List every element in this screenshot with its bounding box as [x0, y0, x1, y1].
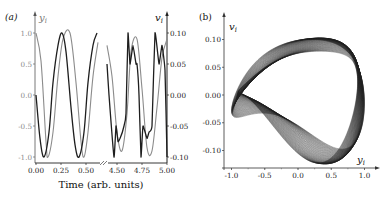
tick-label: 0.05 [205, 63, 221, 72]
panel-b-label: (b) [199, 12, 212, 22]
tick-label: 0.50 [78, 166, 94, 175]
panel-a-right-axis-arrow-icon [165, 11, 168, 16]
tick-label: -1.0 [225, 171, 239, 180]
panel-b-x-var-label: yi [356, 154, 365, 167]
panel-a: (a) yi 1.00.50.0-0.5-1.0 vi 0.100.050.00… [5, 11, 189, 190]
tick-label: 4.75 [134, 166, 150, 175]
panel-b-phase-portrait [232, 38, 365, 164]
panel-b-x-axis-arrow-icon [375, 166, 380, 169]
panel-a-left-ticks: 1.00.50.0-0.5-1.0 [18, 29, 35, 162]
tick-label: 0.0 [21, 91, 33, 100]
tick-label: 4.50 [109, 166, 125, 175]
tick-label: 0.10 [170, 29, 186, 38]
tick-label: -0.5 [258, 171, 272, 180]
tick-label: 0.0 [292, 171, 304, 180]
tick-label: -0.05 [203, 118, 222, 127]
phase-loop [233, 38, 362, 157]
tick-label: -0.10 [170, 153, 189, 162]
tick-label: -0.05 [170, 122, 189, 131]
panel-a-left-var-label: yi [38, 12, 47, 25]
panel-b-y-axis-arrow-icon [222, 12, 225, 17]
panel-b-y-var-label: vi [229, 21, 237, 34]
tick-label: 0.00 [28, 166, 44, 175]
tick-label: 5.00 [159, 166, 175, 175]
panel-b: (b) vi 0.100.050.00-0.05-0.10 yi -1.0-0.… [199, 12, 380, 180]
panel-a-curves [36, 30, 167, 158]
tick-label: 0.5 [326, 171, 338, 180]
tick-label: 1.0 [359, 171, 371, 180]
tick-label: 0.25 [53, 166, 69, 175]
panel-b-y-ticks: 0.100.050.00-0.05-0.10 [203, 35, 224, 155]
panel-a-label: (a) [5, 12, 18, 22]
figure: (a) yi 1.00.50.0-0.5-1.0 vi 0.100.050.00… [0, 0, 391, 207]
panel-a-right-ticks: 0.100.050.00-0.05-0.10 [167, 29, 189, 162]
tick-label: 0.00 [205, 91, 221, 100]
phase-loop [234, 39, 362, 160]
tick-label: 0.05 [170, 60, 186, 69]
series-y-i-line [36, 30, 98, 158]
tick-label: 0.5 [21, 60, 33, 69]
axis-break-icon [100, 159, 108, 167]
phase-loop [232, 39, 364, 151]
tick-label: 0.10 [205, 35, 221, 44]
panel-a-right-var-label: vi [155, 12, 163, 25]
tick-label: -0.10 [203, 146, 222, 155]
panel-a-left-axis-arrow-icon [33, 11, 36, 16]
tick-label: 1.0 [21, 29, 33, 38]
tick-label: -1.0 [18, 153, 32, 162]
tick-label: -0.5 [18, 122, 32, 131]
tick-label: 0.00 [170, 91, 186, 100]
series-v-i-line [36, 33, 97, 158]
panel-b-x-ticks: -1.0-0.50.00.51.0 [225, 168, 371, 180]
panel-a-x-axis-title: Time (arb. units) [59, 179, 144, 190]
